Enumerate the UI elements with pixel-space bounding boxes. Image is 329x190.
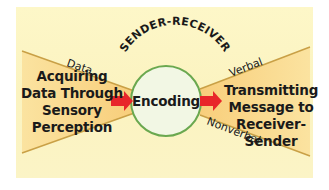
left-line-4: Perception: [20, 119, 124, 136]
center-label: Encoding: [131, 93, 201, 110]
right-line-1: Transmitting: [218, 82, 324, 99]
svg-text:SENDER-RECEIVER: SENDER-RECEIVER: [117, 15, 233, 55]
right-text: Transmitting Message to Receiver-Sender: [218, 82, 324, 150]
left-text: Acquiring Data Through Sensory Perceptio…: [20, 68, 124, 136]
right-line-2: Message to: [218, 99, 324, 116]
right-line-3: Receiver-Sender: [218, 116, 324, 150]
left-line-2: Data Through: [20, 85, 124, 102]
arc-title: SENDER-RECEIVER: [117, 15, 233, 55]
left-line-1: Acquiring: [20, 68, 124, 85]
left-line-3: Sensory: [20, 102, 124, 119]
